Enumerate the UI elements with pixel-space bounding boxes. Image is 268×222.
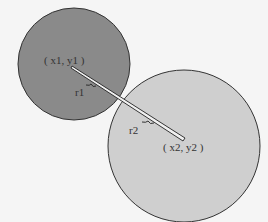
diagram-canvas [0, 0, 268, 222]
center-1-label: ( x1, y1 ) [44, 54, 84, 66]
center-2-label: ( x2, y2 ) [163, 141, 203, 153]
radius-2-label: r2 [129, 124, 138, 136]
two-circles-diagram: ( x1, y1 ) r1 r2 ( x2, y2 ) [0, 0, 268, 222]
radius-1-label: r1 [75, 86, 84, 98]
